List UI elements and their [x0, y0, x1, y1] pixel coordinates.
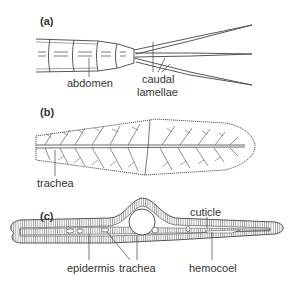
annotation-caudal: caudal — [142, 73, 174, 85]
annotation-epidermis: epidermis — [67, 262, 115, 274]
annotation-trachea-b: trachea — [37, 177, 74, 189]
diagram-canvas — [0, 0, 296, 287]
panel-label-b: (b) — [40, 106, 54, 118]
panel-label-c: (c) — [40, 210, 53, 222]
annotation-lamellae: lamellae — [137, 86, 178, 98]
panel-b-drawing — [36, 119, 255, 176]
panel-c-drawing — [11, 198, 284, 260]
annotation-trachea-c: trachea — [119, 262, 156, 274]
annotation-hemocoel: hemocoel — [189, 262, 237, 274]
annotation-cuticle: cuticle — [190, 206, 221, 218]
panel-label-a: (a) — [40, 15, 53, 27]
annotation-abdomen: abdomen — [67, 77, 113, 89]
